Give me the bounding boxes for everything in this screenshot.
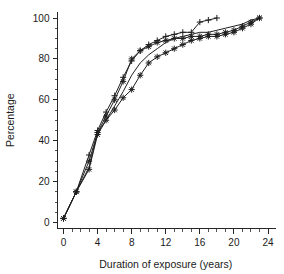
star-marker (60, 215, 66, 221)
y-tick-label: 60 (38, 94, 50, 105)
star-marker (248, 19, 254, 25)
star-marker (120, 78, 126, 84)
x-tick-label: 20 (228, 237, 240, 248)
x-tick-label: 16 (194, 237, 206, 248)
star-marker (154, 39, 160, 45)
x-tick-label: 24 (262, 237, 274, 248)
star-marker (171, 46, 177, 52)
star-marker (171, 35, 177, 41)
star-marker (205, 31, 211, 37)
y-axis-title: Percentage (4, 93, 16, 147)
x-axis-title: Duration of exposure (years) (99, 258, 232, 270)
star-marker (146, 44, 152, 50)
star-marker (73, 189, 79, 195)
cumulative-percentage-chart: 04812162024020406080100Duration of expos… (0, 0, 284, 274)
plus-marker (205, 17, 211, 23)
star-marker (103, 113, 109, 119)
plus-marker (214, 15, 220, 21)
x-tick-label: 8 (129, 237, 135, 248)
star-marker (214, 31, 220, 37)
star-marker (137, 72, 143, 78)
star-marker (188, 33, 194, 39)
y-tick-label: 80 (38, 53, 50, 64)
star-marker (120, 95, 126, 101)
star-marker (94, 129, 100, 135)
star-marker (86, 158, 92, 164)
series-series-middle-plain (64, 18, 260, 218)
star-marker (197, 33, 203, 39)
star-marker (180, 35, 186, 41)
star-marker (146, 60, 152, 66)
star-marker (256, 15, 262, 21)
series-path (64, 18, 260, 218)
star-marker (180, 41, 186, 47)
series-path (64, 18, 260, 218)
star-marker (137, 48, 143, 54)
x-tick-label: 4 (95, 237, 101, 248)
data-series (60, 15, 262, 222)
star-marker (222, 29, 228, 35)
series-series-plus-upper (60, 15, 220, 222)
x-tick-label: 12 (160, 237, 172, 248)
star-marker (129, 86, 135, 92)
figure-container: 04812162024020406080100Duration of expos… (0, 0, 284, 274)
star-marker (163, 50, 169, 56)
y-tick-label: 0 (44, 217, 50, 228)
star-marker (163, 37, 169, 43)
star-marker (112, 97, 118, 103)
star-marker (129, 56, 135, 62)
axes (53, 12, 277, 234)
star-marker (231, 27, 237, 33)
y-tick-label: 20 (38, 176, 50, 187)
star-marker (112, 107, 118, 113)
plus-marker (180, 29, 186, 35)
star-marker (154, 54, 160, 60)
star-marker (239, 23, 245, 29)
y-tick-label: 100 (33, 13, 50, 24)
series-path (64, 18, 260, 218)
x-tick-label: 0 (61, 237, 67, 248)
y-tick-label: 40 (38, 135, 50, 146)
